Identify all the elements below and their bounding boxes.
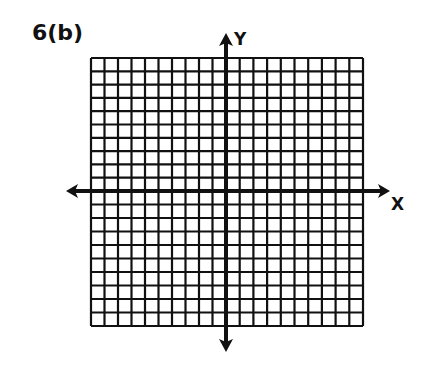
y-axis-label: Y <box>234 29 246 49</box>
x-axis-label: X <box>391 194 404 214</box>
coordinate-grid <box>0 0 424 370</box>
